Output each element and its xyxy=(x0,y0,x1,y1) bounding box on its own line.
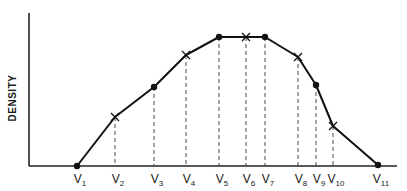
tick-subscript: 10 xyxy=(336,179,345,188)
tick-base: V xyxy=(216,172,224,186)
tick-subscript: 9 xyxy=(321,179,325,188)
x-tick-v1: V1 xyxy=(74,172,86,188)
x-tick-v7: V7 xyxy=(262,172,274,188)
tick-base: V xyxy=(74,172,82,186)
tick-base: V xyxy=(151,172,159,186)
tick-base: V xyxy=(313,172,321,186)
tick-subscript: 7 xyxy=(270,179,274,188)
density-curve xyxy=(77,37,378,166)
tick-subscript: 8 xyxy=(303,179,307,188)
tick-base: V xyxy=(295,172,303,186)
x-tick-v10: V10 xyxy=(328,172,345,188)
density-line xyxy=(77,37,378,166)
tick-subscript: 5 xyxy=(224,179,228,188)
tick-base: V xyxy=(112,172,120,186)
tick-base: V xyxy=(262,172,270,186)
x-tick-v4: V4 xyxy=(183,172,195,188)
y-axis-label: DENSITY xyxy=(7,75,18,122)
dot-marker-icon xyxy=(151,84,157,90)
x-tick-v9: V9 xyxy=(313,172,325,188)
x-tick-v5: V5 xyxy=(216,172,228,188)
tick-base: V xyxy=(328,172,336,186)
dot-marker-icon xyxy=(262,34,268,40)
markers xyxy=(74,33,381,169)
x-tick-v8: V8 xyxy=(295,172,307,188)
x-tick-v2: V2 xyxy=(112,172,124,188)
dashed-guides xyxy=(115,37,333,166)
x-tick-v11: V11 xyxy=(373,172,389,188)
x-tick-v3: V3 xyxy=(151,172,163,188)
dot-marker-icon xyxy=(313,82,319,88)
dot-marker-icon xyxy=(216,34,222,40)
tick-subscript: 3 xyxy=(159,179,163,188)
tick-subscript: 4 xyxy=(191,179,195,188)
tick-base: V xyxy=(373,172,381,186)
dot-marker-icon xyxy=(375,162,381,168)
tick-base: V xyxy=(243,172,251,186)
x-tick-v6: V6 xyxy=(243,172,255,188)
axes xyxy=(29,13,397,166)
tick-base: V xyxy=(183,172,191,186)
tick-subscript: 2 xyxy=(120,179,124,188)
tick-subscript: 11 xyxy=(381,179,389,188)
dot-marker-icon xyxy=(74,163,80,169)
tick-subscript: 1 xyxy=(82,179,86,188)
tick-subscript: 6 xyxy=(251,179,255,188)
density-chart xyxy=(0,0,407,191)
